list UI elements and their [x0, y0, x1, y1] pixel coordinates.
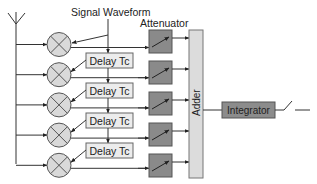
delay-label: Delay Tc	[89, 145, 129, 157]
multiplier-icon	[47, 33, 71, 57]
adder-label: Adder	[191, 89, 202, 116]
multiplier-icon	[47, 63, 71, 87]
delay-label: Delay Tc	[89, 115, 129, 127]
attenuator-icon	[149, 123, 172, 146]
signal-to-multiplier-1	[72, 35, 108, 43]
attenuator-label: Attenuator	[140, 17, 189, 29]
attenuator-icon	[149, 30, 172, 53]
attenuator-icon	[149, 92, 172, 115]
delay-block-4: Delay Tc	[71, 143, 133, 162]
multiplier-icon	[47, 93, 71, 117]
output-switch-icon	[275, 101, 310, 110]
delay-label: Delay Tc	[89, 55, 129, 67]
delay-block-1: Delay Tc	[71, 53, 133, 83]
integrator-label: Integrator	[227, 105, 270, 116]
adder-block: Adder	[189, 30, 203, 178]
integrator-block: Integrator	[222, 102, 275, 118]
antenna-icon	[8, 12, 25, 24]
delay-label: Delay Tc	[89, 85, 129, 97]
delay-block-2: Delay Tc	[71, 83, 133, 113]
rake-receiver-diagram: Signal Waveform Attenuator Delay TcDelay…	[0, 0, 317, 184]
multiplier-icon	[47, 123, 71, 147]
attenuator-icon	[149, 61, 172, 84]
multiplier-icon	[47, 153, 71, 177]
signal-waveform-label: Signal Waveform	[71, 6, 151, 18]
attenuator-icon	[149, 154, 172, 177]
